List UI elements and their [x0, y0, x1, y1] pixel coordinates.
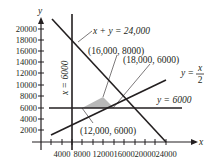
- label-line4: y = 6000: [156, 95, 192, 105]
- svg-text:8000: 8000: [20, 91, 37, 101]
- svg-text:16000: 16000: [113, 149, 134, 159]
- svg-text:20000: 20000: [134, 149, 155, 159]
- svg-text:y =: y =: [180, 68, 194, 78]
- y-axis-arrow-icon: [38, 17, 44, 24]
- leader-pt2: [113, 64, 150, 108]
- chart: 20000 18000 16000 14000 12000 10000 8000…: [0, 0, 205, 166]
- svg-text:12000: 12000: [16, 68, 37, 78]
- svg-text:24000: 24000: [155, 149, 176, 159]
- x-axis-label: x: [198, 137, 204, 147]
- svg-text:20000: 20000: [16, 24, 37, 34]
- leader-line1: [78, 31, 92, 42]
- svg-text:8000: 8000: [74, 149, 91, 159]
- svg-text:12000: 12000: [92, 149, 113, 159]
- svg-text:16000: 16000: [16, 46, 37, 56]
- y-tick-labels: 20000 18000 16000 14000 12000 10000 8000…: [16, 24, 37, 135]
- label-line1: x + y = 24,000: [92, 26, 150, 36]
- svg-text:10000: 10000: [16, 80, 37, 90]
- svg-text:6000: 6000: [20, 103, 37, 113]
- svg-text:4000: 4000: [54, 149, 71, 159]
- svg-text:14000: 14000: [16, 57, 37, 67]
- svg-text:x: x: [197, 63, 203, 73]
- svg-text:2000: 2000: [20, 125, 37, 135]
- svg-text:18000: 18000: [16, 35, 37, 45]
- label-line2: x = 6000: [60, 60, 70, 96]
- label-point-18000-6000: (18,000, 6000): [123, 55, 179, 66]
- label-point-12000-6000: (12,000, 6000): [80, 126, 136, 137]
- x-tick-labels: 4000 8000 12000 16000 20000 24000: [54, 149, 177, 159]
- svg-text:4000: 4000: [20, 114, 37, 124]
- svg-text:2: 2: [198, 75, 203, 85]
- label-line3: y = x 2: [180, 63, 204, 85]
- x-axis-arrow-icon: [191, 139, 198, 145]
- y-axis-label: y: [37, 6, 43, 16]
